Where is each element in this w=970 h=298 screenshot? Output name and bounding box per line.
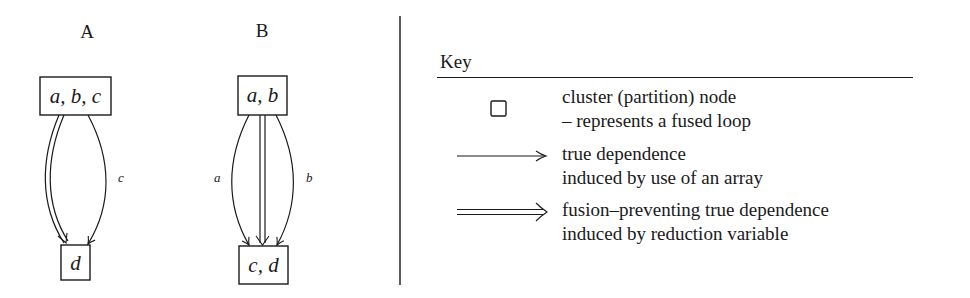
edge-a-fusion-preventing [45,115,68,243]
node-b-bottom-label: c, d [248,253,279,277]
double-arrow-icon [457,203,547,221]
key-entry-true-dep-line2: induced by use of an array [562,167,764,188]
square-node-icon [491,101,506,116]
key-entry-fusion-line1: fusion–preventing true dependence [562,199,829,220]
diagram-a: A a, b, c d c [40,21,124,280]
diagram-b-label: B [256,20,269,41]
edge-b-fusion-preventing [256,115,269,245]
diagram-a-label: A [80,21,94,42]
edge-b-b-label: b [306,170,313,185]
key-title: Key [440,51,472,72]
node-b-top-label: a, b [247,83,279,107]
edge-b-a [232,115,249,245]
node-a-top-label: a, b, c [50,84,102,108]
diagram-b: B a, b c, d a b [214,20,313,284]
edge-b-b [276,115,293,245]
key-legend: Key cluster (partition) node – represent… [437,51,913,244]
fusion-graph-figure: A a, b, c d c B a, b c, d a [0,0,970,298]
key-entry-node-line2: – represents a fused loop [561,110,751,131]
key-entry-fusion-line2: induced by reduction variable [562,223,788,244]
edge-a-c-label: c [118,170,124,185]
single-arrow-icon [457,151,546,161]
key-entry-true-dep-line1: true dependence [562,143,686,164]
edge-a-c [88,115,106,244]
key-entry-node-line1: cluster (partition) node [562,86,736,108]
node-a-bottom-label: d [70,251,81,275]
edge-b-a-label: a [214,170,221,185]
